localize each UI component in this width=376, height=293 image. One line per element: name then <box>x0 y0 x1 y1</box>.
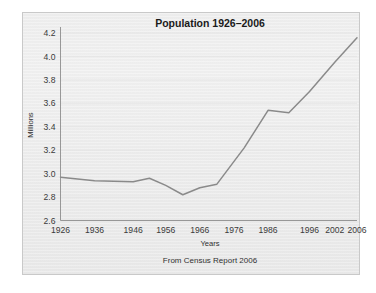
figure-canvas: 2.62.83.03.23.43.63.84.04.2 192619361946… <box>0 0 376 293</box>
x-axis-tick-labels: 1926193619461956196619761986199620022006 <box>51 225 367 235</box>
x-tick-label: 1956 <box>156 225 175 235</box>
x-tick-label: 2002 <box>325 225 344 235</box>
chart-caption: From Census Report 2006 <box>163 256 258 265</box>
y-axis-title: Millions <box>26 112 35 138</box>
x-tick-label: 1996 <box>300 225 319 235</box>
chart-title: Population 1926–2006 <box>155 17 265 29</box>
x-tick-label: 1966 <box>190 225 209 235</box>
population-line-chart: 2.62.83.03.23.43.63.84.04.2 192619361946… <box>0 0 376 293</box>
x-tick-label: 1926 <box>51 225 70 235</box>
x-axis-title: Years <box>200 239 219 248</box>
x-tick-label: 1936 <box>85 225 104 235</box>
y-tick-label: 3.4 <box>44 122 56 132</box>
x-tick-label: 1986 <box>258 225 277 235</box>
y-tick-label: 3.6 <box>44 98 56 108</box>
y-tick-label: 3.2 <box>44 145 56 155</box>
x-tick-label: 2006 <box>347 225 366 235</box>
y-tick-label: 4.0 <box>44 52 56 62</box>
x-tick-label: 1946 <box>124 225 143 235</box>
axis-lines <box>61 27 358 221</box>
population-series-line <box>61 38 358 195</box>
gridlines <box>61 33 358 221</box>
y-tick-label: 3.8 <box>44 75 56 85</box>
x-tick-label: 1976 <box>224 225 243 235</box>
y-axis-tick-labels: 2.62.83.03.23.43.63.84.04.2 <box>44 28 56 226</box>
y-tick-label: 4.2 <box>44 28 56 38</box>
y-tick-label: 3.0 <box>44 169 56 179</box>
y-tick-label: 2.8 <box>44 192 56 202</box>
